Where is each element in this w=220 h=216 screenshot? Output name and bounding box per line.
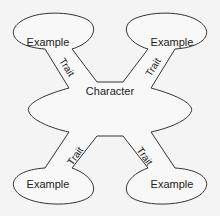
character-trait-diagram: Example Example Example Example Characte… [0,0,220,216]
node-label-top-right: Example [151,36,194,48]
center-label: Character [86,85,135,97]
diagram-svg: Example Example Example Example Characte… [0,0,220,216]
node-label-top-left: Example [27,36,70,48]
node-label-bottom-left: Example [27,178,70,190]
node-label-bottom-right: Example [151,178,194,190]
